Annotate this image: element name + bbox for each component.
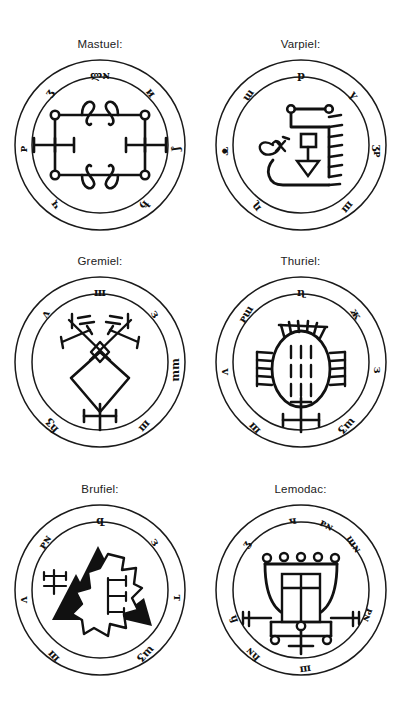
sigil-drawing-gremiel: ш з ɯɯ ʌ ɦʒ ш	[12, 274, 188, 450]
sigil-cell-gremiel: Gremiel:	[0, 228, 200, 456]
ring-glyph: ɳ	[297, 286, 306, 299]
lemodac-rim-circles	[263, 553, 339, 562]
gremiel-base-cross	[84, 404, 116, 430]
ring-glyph: ʒᴩ	[371, 145, 384, 158]
sigil-figure-gremiel: ш з ɯɯ ʌ ɦʒ ш	[12, 274, 188, 450]
sigil-label-thuriel: Thuriel:	[281, 255, 321, 268]
ring-glyph: ж	[347, 306, 364, 322]
sigil-cell-varpiel: Varpiel:	[200, 0, 401, 228]
sigil-drawing-lemodac: ч ᴩɴ ɯɴ ʒ ᴩɴ ɦ ɦɴ ш	[213, 502, 389, 678]
ring-glyph: ɳ	[248, 199, 264, 214]
ring-glyph: ш	[338, 199, 356, 217]
ring-glyph: ʆ	[170, 146, 183, 152]
sigil-cell-lemodac: Lemodac:	[200, 456, 401, 713]
sigil-drawing-brufiel: զ з т ᴩɴ ʌ ɯʒ ш	[12, 502, 188, 678]
lemodac-left-cross	[243, 612, 271, 626]
ring-glyph: ɦɴ	[242, 645, 261, 664]
mastuel-right-cross	[126, 138, 166, 152]
ring-glyph: ʌ	[38, 307, 53, 321]
sigil-figure-brufiel: զ з т ᴩɴ ʌ ɯʒ ш	[12, 502, 188, 678]
thuriel-left-ladder	[257, 352, 272, 386]
ring-glyph: ш	[245, 420, 263, 438]
sigil-label-lemodac: Lemodac:	[274, 483, 326, 496]
sigil-drawing-mastuel: ლɴ и ʒ ᴩ ʆ ђ ҷ	[12, 57, 188, 233]
ring-glyph: ʌ	[17, 596, 30, 604]
ring-glyph: ɯɴ	[344, 533, 364, 555]
sigil-label-gremiel: Gremiel:	[77, 255, 122, 268]
ring-glyph: ш	[299, 663, 312, 676]
varpiel-inner-square	[301, 134, 316, 147]
sigil-cell-brufiel: Brufiel:	[0, 456, 200, 713]
sigil-cell-mastuel: Mastuel:	[0, 0, 200, 228]
varpiel-down-triangle	[297, 161, 319, 176]
ring-glyph: ᴩɯ	[235, 303, 256, 326]
varpiel-loop-glyph	[259, 137, 288, 155]
ring-glyph: з	[148, 536, 163, 549]
sigil-sheet: Mastuel:	[0, 0, 401, 713]
ring-glyph: ɦ	[226, 613, 240, 625]
ring-glyph: ч	[287, 514, 297, 527]
ring-glyph: ლɴ	[90, 69, 110, 82]
sigil-figure-lemodac: ч ᴩɴ ɯɴ ʒ ᴩɴ ɦ ɦɴ ш	[213, 502, 389, 678]
varpiel-ladder-rungs	[329, 115, 342, 185]
gremiel-right-arm	[90, 314, 139, 360]
ring-glyph: ү	[346, 88, 361, 102]
sigil-drawing-varpiel: р ү ɯ ᴥ ʒᴩ ɳ ш	[213, 57, 389, 233]
ring-glyph: з	[371, 366, 384, 373]
ring-glyph: ᴩ	[17, 145, 30, 152]
mastuel-bottom-curls	[82, 165, 118, 188]
ring-glyph: ɯ	[239, 86, 257, 103]
ring-glyph: з	[148, 308, 163, 321]
sigil-drawing-thuriel: ɳ ж з ᴩɯ ʌ ɯʒ ш	[213, 274, 389, 450]
ring-glyph: ш	[94, 286, 106, 299]
ring-glyph: ш	[136, 418, 154, 436]
ring-glyph: զ	[96, 514, 105, 527]
sigil-label-varpiel: Varpiel:	[281, 38, 321, 51]
ring-glyph: ᴥ	[218, 146, 231, 155]
ring-glyph: ш	[45, 648, 63, 666]
sigil-label-mastuel: Mastuel:	[77, 38, 122, 51]
mastuel-left-cross	[34, 138, 74, 152]
sigil-cell-thuriel: Thuriel:	[200, 228, 401, 456]
sigil-figure-varpiel: р ү ɯ ᴥ ʒᴩ ɳ ш	[213, 57, 389, 233]
ring-glyph: ᴩɴ	[36, 533, 55, 552]
ring-glyph: и	[143, 86, 158, 100]
lemodac-right-cross	[331, 612, 359, 626]
sigil-grid: Mastuel:	[0, 0, 401, 713]
lemodac-inner-grid	[282, 574, 320, 622]
sigil-label-brufiel: Brufiel:	[81, 483, 118, 496]
ring-glyph: т	[171, 595, 184, 602]
ring-glyph: ʌ	[218, 368, 231, 376]
sigil-figure-thuriel: ɳ ж з ᴩɯ ʌ ɯʒ ш	[213, 274, 389, 450]
gremiel-left-arm	[61, 314, 110, 360]
ring-glyph: ʒ	[42, 86, 57, 100]
lemodac-base-stem	[289, 630, 313, 654]
ring-glyph: р	[297, 69, 305, 82]
sigil-figure-mastuel: ლɴ и ʒ ᴩ ʆ ђ ҷ	[12, 57, 188, 233]
varpiel-bracket	[268, 109, 329, 185]
ring-glyph: ᴩɴ	[360, 607, 376, 624]
mastuel-top-curls	[82, 102, 118, 125]
ring-glyph: ɦʒ	[41, 416, 61, 436]
ring-glyph: ɯɯ	[170, 358, 183, 382]
ring-glyph-group: ლɴ и ʒ ᴩ ʆ ђ ҷ	[17, 69, 183, 212]
thuriel-right-ladder	[330, 352, 345, 386]
